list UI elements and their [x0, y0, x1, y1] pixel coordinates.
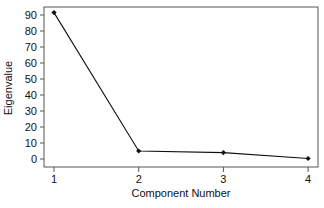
y-tick-label: 80 [25, 25, 37, 37]
data-series [51, 10, 310, 161]
y-tick-label: 20 [25, 121, 37, 133]
x-axis: 1234 [51, 167, 311, 185]
x-tick-label: 1 [51, 173, 57, 185]
x-tick-label: 2 [136, 173, 142, 185]
y-tick-label: 60 [25, 57, 37, 69]
data-point-marker [306, 156, 311, 161]
y-tick-label: 10 [25, 137, 37, 149]
y-tick-label: 70 [25, 41, 37, 53]
data-point-marker [136, 148, 141, 153]
x-axis-label: Component Number [131, 187, 230, 199]
y-tick-label: 40 [25, 89, 37, 101]
y-tick-label: 90 [25, 9, 37, 21]
x-tick-label: 3 [220, 173, 226, 185]
scree-plot: 0102030405060708090 1234 Eigenvalue Comp… [0, 0, 324, 208]
x-tick-label: 4 [305, 173, 311, 185]
data-point-marker [221, 150, 226, 155]
plot-frame [44, 7, 318, 167]
y-axis: 0102030405060708090 [25, 9, 44, 165]
y-axis-label: Eigenvalue [2, 61, 14, 115]
y-tick-label: 50 [25, 73, 37, 85]
y-tick-label: 30 [25, 105, 37, 117]
data-point-marker [51, 10, 56, 15]
y-tick-label: 0 [31, 153, 37, 165]
series-line [54, 13, 308, 159]
